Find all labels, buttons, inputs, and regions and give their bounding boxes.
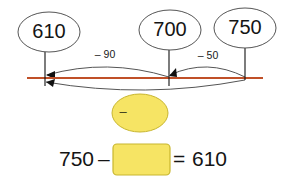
bubble-610: 610 xyxy=(18,12,80,52)
answer-ellipse[interactable]: – xyxy=(112,94,168,132)
jump-minus-50-arc xyxy=(170,67,245,77)
bubble-700-label: 700 xyxy=(153,18,186,40)
figure-canvas: – 90 – 50 610 700 750 – 750 – = 610 xyxy=(0,0,286,187)
bubble-750-label: 750 xyxy=(228,16,261,38)
equation-equals: = xyxy=(173,147,185,170)
jump-total-arrowhead xyxy=(46,79,55,87)
answer-box[interactable] xyxy=(113,144,170,175)
bubble-750: 750 xyxy=(214,8,276,48)
equation-minuend: 750 xyxy=(59,147,94,170)
jump-minus-50-arrowhead xyxy=(169,68,177,77)
jump-minus-90-label: – 90 xyxy=(95,48,116,60)
answer-ellipse-operator: – xyxy=(119,104,127,119)
bubble-610-label: 610 xyxy=(32,20,65,42)
equation-result: 610 xyxy=(192,147,227,170)
equation-operator: – xyxy=(98,147,110,170)
number-line-diagram: – 90 – 50 610 700 750 – 750 – = 610 xyxy=(0,0,286,187)
bubble-700: 700 xyxy=(139,10,201,50)
equation-row: 750 – = 610 xyxy=(59,144,227,175)
jump-total-arc xyxy=(46,80,245,90)
jump-minus-90-arc xyxy=(47,67,169,77)
jump-minus-50-label: – 50 xyxy=(198,49,219,61)
